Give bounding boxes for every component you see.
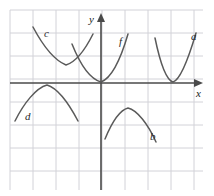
- y-axis-arrowhead: [97, 13, 105, 22]
- curve-label-d: d: [25, 110, 31, 122]
- curve-label-b: b: [150, 130, 156, 142]
- x-axis-arrowhead: [194, 79, 203, 87]
- curve-label-f: f: [119, 35, 124, 47]
- curve-a: [155, 33, 196, 82]
- x-axis-label: x: [195, 87, 201, 99]
- curve-label-a: a: [191, 30, 197, 42]
- curve-label-c: c: [44, 27, 49, 39]
- y-axis-label: y: [88, 13, 94, 25]
- parabola-graph-figure: x y abcdf: [0, 0, 214, 196]
- graph-canvas: x y abcdf: [0, 0, 214, 196]
